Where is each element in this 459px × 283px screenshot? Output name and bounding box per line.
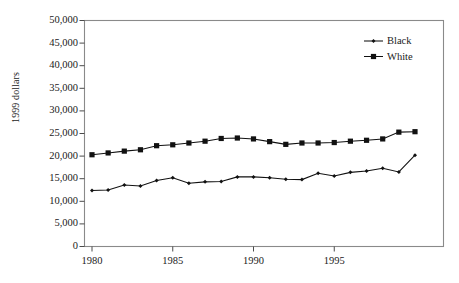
data-point-black	[203, 180, 207, 184]
data-point-black	[138, 184, 142, 188]
data-point-black	[122, 183, 126, 187]
data-point-white	[316, 140, 321, 145]
data-point-black	[155, 179, 159, 183]
y-tick-label: 5,000	[54, 218, 78, 228]
legend	[364, 39, 383, 59]
x-tick-label: 1990	[243, 255, 264, 266]
y-tick-label: 35,000	[49, 83, 78, 93]
data-point-black	[187, 181, 191, 185]
data-point-white	[332, 140, 337, 145]
y-tick-label: 30,000	[49, 105, 78, 115]
data-point-white	[299, 140, 304, 145]
data-point-white	[186, 140, 191, 145]
data-point-white	[348, 139, 353, 144]
data-point-black	[268, 176, 272, 180]
y-axis-ticks	[80, 21, 85, 247]
legend-label-black: Black	[387, 35, 412, 46]
data-point-black	[90, 188, 94, 192]
data-point-black	[381, 166, 385, 170]
data-point-black	[106, 188, 110, 192]
data-point-white	[283, 142, 288, 147]
y-tick-label: 45,000	[49, 38, 78, 48]
data-point-white	[219, 136, 224, 141]
data-point-white	[122, 149, 127, 154]
y-tick-label: 40,000	[49, 60, 78, 70]
data-point-white	[364, 138, 369, 143]
legend-marker-black	[372, 39, 376, 43]
data-point-white	[396, 130, 401, 135]
y-axis-tick-labels: 05,00010,00015,00020,00025,00030,00035,0…	[22, 0, 78, 283]
data-point-white	[380, 136, 385, 141]
data-series-group	[89, 129, 417, 192]
x-tick-label: 1985	[162, 255, 183, 266]
data-point-black	[171, 176, 175, 180]
y-tick-label: 0	[73, 241, 78, 251]
y-tick-label: 10,000	[49, 196, 78, 206]
data-point-white	[154, 143, 159, 148]
y-tick-label: 50,000	[49, 15, 78, 25]
data-point-white	[106, 150, 111, 155]
data-point-black	[365, 169, 369, 173]
x-axis-ticks	[92, 247, 334, 252]
legend-label-white: White	[387, 51, 413, 62]
y-tick-label: 15,000	[49, 173, 78, 183]
data-point-white	[412, 129, 417, 134]
data-point-white	[89, 152, 94, 157]
data-point-black	[332, 174, 336, 178]
y-tick-label: 20,000	[49, 151, 78, 161]
x-tick-label: 1980	[82, 255, 103, 266]
data-point-white	[267, 139, 272, 144]
data-point-black	[300, 178, 304, 182]
data-point-black	[252, 175, 256, 179]
data-point-white	[202, 139, 207, 144]
data-point-white	[235, 135, 240, 140]
y-tick-label: 25,000	[49, 128, 78, 138]
data-point-white	[138, 147, 143, 152]
x-tick-label: 1995	[324, 255, 345, 266]
data-point-black	[348, 170, 352, 174]
chart-container: 1999 dollars 05,00010,00015,00020,00025,…	[0, 0, 459, 283]
data-point-black	[219, 179, 223, 183]
data-point-black	[235, 175, 239, 179]
y-axis-label: 1999 dollars	[10, 53, 21, 143]
data-point-black	[284, 177, 288, 181]
data-point-white	[251, 136, 256, 141]
data-point-black	[316, 171, 320, 175]
legend-marker-white	[371, 54, 376, 59]
data-point-white	[170, 142, 175, 147]
